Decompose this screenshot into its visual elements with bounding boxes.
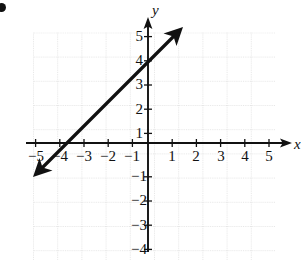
graph-figure: −5 −4 −3 −2 −1 1 2 3 4 5 5 4 3 2 1 −1 −2…	[0, 0, 301, 260]
y-tick-label-4: 4	[136, 53, 144, 68]
x-tick-label--5: −5	[28, 149, 44, 164]
y-axis-label: y	[152, 3, 159, 18]
x-tick-label--1: −1	[124, 149, 140, 164]
y-tick-label--1: −1	[131, 169, 147, 184]
y-tick-label--3: −3	[131, 218, 147, 233]
x-tick-label-4: 4	[241, 149, 249, 164]
x-axis-label: x	[294, 137, 301, 152]
y-tick-label-1: 1	[136, 126, 144, 141]
y-tick-label--4: −4	[131, 242, 147, 257]
x-tick-label-2: 2	[192, 149, 200, 164]
y-tick-label-3: 3	[136, 77, 144, 92]
x-tick-label--3: −3	[76, 149, 92, 164]
x-tick-label-5: 5	[265, 149, 273, 164]
x-tick-label-1: 1	[168, 149, 176, 164]
y-tick-label--2: −2	[131, 193, 147, 208]
coordinate-plane	[0, 0, 301, 260]
x-tick-label-3: 3	[217, 149, 225, 164]
x-tick-label--4: −4	[52, 149, 68, 164]
y-tick-label-2: 2	[136, 102, 144, 117]
grid-lines	[33, 32, 275, 260]
y-tick-label-5: 5	[136, 29, 144, 44]
x-tick-label--2: −2	[100, 149, 116, 164]
